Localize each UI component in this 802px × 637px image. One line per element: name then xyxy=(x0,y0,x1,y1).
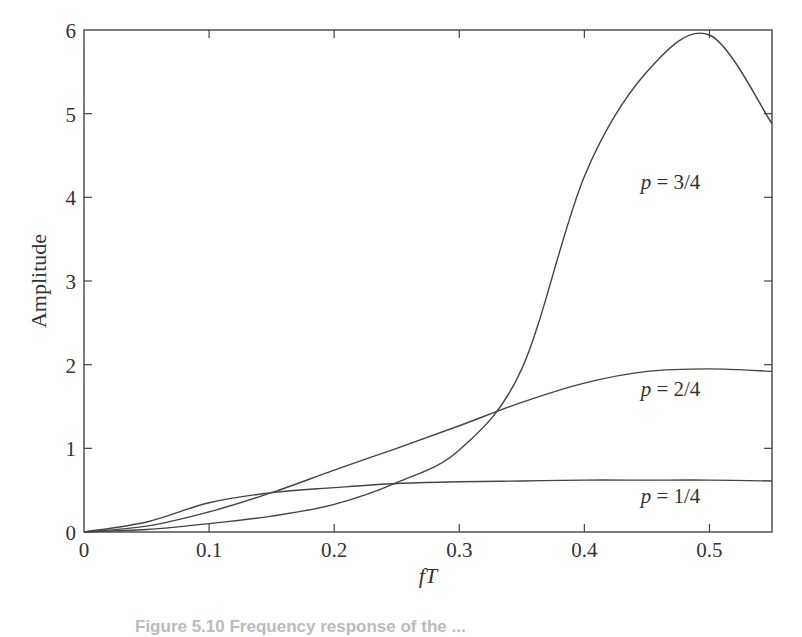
x-tick-label: 0.1 xyxy=(196,538,222,562)
y-tick-label: 0 xyxy=(66,521,77,545)
curve-p-3-4 xyxy=(84,33,772,532)
curve-label: p = 3/4 xyxy=(639,170,701,194)
x-tick-label: 0.3 xyxy=(446,538,472,562)
curve-label: p = 1/4 xyxy=(639,484,701,508)
x-tick-label: 0 xyxy=(79,538,90,562)
y-tick-label: 1 xyxy=(66,437,77,461)
x-axis-title: fT xyxy=(419,563,439,588)
curves xyxy=(84,33,772,532)
plot-border xyxy=(84,30,772,532)
y-axis-title: Amplitude xyxy=(26,234,51,328)
curve-labels: p = 1/4p = 2/4p = 3/4 xyxy=(639,170,701,508)
figure-caption: Figure 5.10 Frequency response of the ..… xyxy=(135,617,466,637)
x-tick-label: 0.2 xyxy=(321,538,347,562)
y-tick-label: 5 xyxy=(66,103,77,127)
y-tick-label: 6 xyxy=(66,19,77,43)
x-tick-label: 0.5 xyxy=(696,538,722,562)
y-tick-label: 3 xyxy=(66,270,77,294)
y-tick-label: 4 xyxy=(66,186,77,210)
x-tick-label: 0.4 xyxy=(571,538,598,562)
y-tick-label: 2 xyxy=(66,354,77,378)
curve-label: p = 2/4 xyxy=(639,377,701,401)
plot-frame xyxy=(84,30,772,532)
